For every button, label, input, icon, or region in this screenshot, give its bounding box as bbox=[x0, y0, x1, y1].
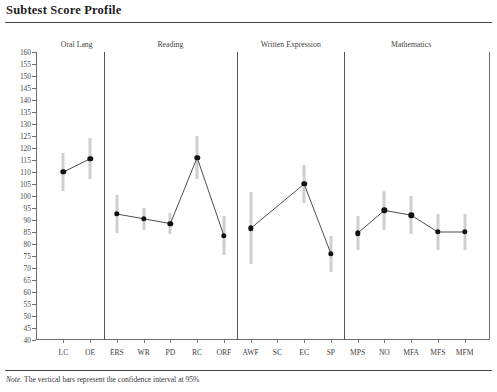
x-tick-label: EC bbox=[299, 348, 309, 357]
y-tick-label: 145 bbox=[5, 84, 31, 93]
plot-area: 1601551501451401351301251201151101051009… bbox=[36, 52, 490, 340]
section-header: Reading bbox=[157, 40, 183, 49]
y-tick-label: 90 bbox=[5, 216, 31, 225]
x-tick-label: RC bbox=[192, 348, 202, 357]
note-label: Note. bbox=[6, 375, 22, 384]
x-tick-label: ORF bbox=[216, 348, 231, 357]
y-tick-label: 100 bbox=[5, 192, 31, 201]
y-tick-label: 95 bbox=[5, 204, 31, 213]
y-tick-label: 155 bbox=[5, 60, 31, 69]
x-tick-label: SP bbox=[327, 348, 335, 357]
x-tick-label: MFS bbox=[430, 348, 445, 357]
chart-page: Subtest Score Profile Oral LangReadingWr… bbox=[0, 0, 497, 392]
y-tick-label: 125 bbox=[5, 132, 31, 141]
y-tick-label: 115 bbox=[5, 156, 31, 165]
x-tick-label: NO bbox=[379, 348, 390, 357]
y-tick-label: 40 bbox=[5, 336, 31, 345]
y-tick-label: 105 bbox=[5, 180, 31, 189]
note-body: The vertical bars represent the confiden… bbox=[22, 375, 199, 384]
y-tick-label: 120 bbox=[5, 144, 31, 153]
y-tick-label: 55 bbox=[5, 300, 31, 309]
section-header: Written Expression bbox=[261, 40, 321, 49]
y-tick bbox=[32, 340, 36, 341]
profile-lines bbox=[36, 52, 490, 340]
x-tick-label: AWF bbox=[242, 348, 258, 357]
profile-line-segment bbox=[251, 184, 331, 254]
page-title: Subtest Score Profile bbox=[6, 3, 122, 18]
x-tick-label: MFM bbox=[456, 348, 474, 357]
y-tick-label: 160 bbox=[5, 48, 31, 57]
y-tick-label: 85 bbox=[5, 228, 31, 237]
y-tick-label: 45 bbox=[5, 324, 31, 333]
section-header: Oral Lang bbox=[61, 40, 93, 49]
y-tick-label: 65 bbox=[5, 276, 31, 285]
x-tick-label: PD bbox=[166, 348, 176, 357]
y-tick-label: 110 bbox=[5, 168, 31, 177]
y-tick-label: 50 bbox=[5, 312, 31, 321]
y-tick-label: 150 bbox=[5, 72, 31, 81]
x-tick-label: SC bbox=[273, 348, 282, 357]
x-tick-label: MPS bbox=[350, 348, 365, 357]
y-tick-label: 70 bbox=[5, 264, 31, 273]
section-header-row: Oral LangReadingWritten ExpressionMathem… bbox=[36, 40, 490, 52]
x-tick-label: OE bbox=[85, 348, 95, 357]
x-tick-label: LC bbox=[59, 348, 69, 357]
section-header: Mathematics bbox=[391, 40, 431, 49]
profile-line-segment bbox=[63, 159, 90, 172]
figure-note: Note. The vertical bars represent the co… bbox=[6, 375, 199, 384]
y-tick-label: 75 bbox=[5, 252, 31, 261]
title-divider bbox=[5, 22, 492, 23]
x-tick-label: MFA bbox=[403, 348, 419, 357]
y-tick-label: 135 bbox=[5, 108, 31, 117]
note-divider bbox=[5, 370, 492, 371]
x-tick-label: ERS bbox=[110, 348, 124, 357]
x-tick-label: WR bbox=[138, 348, 150, 357]
y-tick-label: 80 bbox=[5, 240, 31, 249]
y-tick-label: 130 bbox=[5, 120, 31, 129]
y-tick-label: 140 bbox=[5, 96, 31, 105]
y-tick-label: 60 bbox=[5, 288, 31, 297]
